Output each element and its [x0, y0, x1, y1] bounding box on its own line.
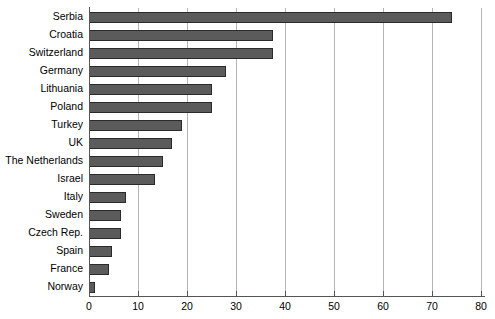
x-tick-label-70: 70 — [417, 300, 447, 312]
category-label: The Netherlands — [0, 155, 83, 166]
x-tick-10 — [138, 291, 139, 297]
category-label: Turkey — [0, 119, 83, 130]
bar — [89, 102, 212, 113]
bar — [89, 264, 109, 275]
x-tick-label-0: 0 — [74, 300, 104, 312]
bar-chart: SerbiaCroatiaSwitzerlandGermanyLithuania… — [0, 0, 495, 319]
x-tick-50 — [334, 291, 335, 297]
bar — [89, 66, 226, 77]
bar — [89, 12, 452, 23]
x-tick-80 — [481, 291, 482, 297]
x-tick-20 — [187, 291, 188, 297]
x-tick-label-30: 30 — [221, 300, 251, 312]
category-label: Croatia — [0, 29, 83, 40]
x-tick-70 — [432, 291, 433, 297]
category-label: Norway — [0, 281, 83, 292]
x-axis-line — [89, 296, 485, 297]
bar — [89, 156, 163, 167]
x-tick-0 — [89, 291, 90, 297]
category-label: Serbia — [0, 11, 83, 22]
category-label: Switzerland — [0, 47, 83, 58]
bar — [89, 246, 112, 257]
bar — [89, 138, 172, 149]
bar — [89, 84, 212, 95]
category-label: Poland — [0, 101, 83, 112]
category-label: UK — [0, 137, 83, 148]
category-axis-labels: SerbiaCroatiaSwitzerlandGermanyLithuania… — [0, 8, 86, 296]
bar — [89, 30, 273, 41]
category-label: Spain — [0, 245, 83, 256]
bar — [89, 48, 273, 59]
bar — [89, 192, 126, 203]
x-tick-label-40: 40 — [270, 300, 300, 312]
bar — [89, 174, 155, 185]
bar — [89, 210, 121, 221]
category-label: Lithuania — [0, 83, 83, 94]
bar — [89, 120, 182, 131]
x-tick-label-60: 60 — [368, 300, 398, 312]
x-tick-40 — [285, 291, 286, 297]
category-label: Israel — [0, 173, 83, 184]
x-tick-label-10: 10 — [123, 300, 153, 312]
x-tick-label-50: 50 — [319, 300, 349, 312]
bar-series — [89, 8, 483, 296]
category-label: Sweden — [0, 209, 83, 220]
bar — [89, 228, 121, 239]
x-tick-30 — [236, 291, 237, 297]
y-axis-line — [89, 7, 90, 297]
x-tick-label-20: 20 — [172, 300, 202, 312]
category-label: Czech Rep. — [0, 227, 83, 238]
plot-area — [89, 8, 483, 296]
x-tick-label-80: 80 — [466, 300, 495, 312]
category-label: France — [0, 263, 83, 274]
x-tick-60 — [383, 291, 384, 297]
category-label: Germany — [0, 65, 83, 76]
category-label: Italy — [0, 191, 83, 202]
